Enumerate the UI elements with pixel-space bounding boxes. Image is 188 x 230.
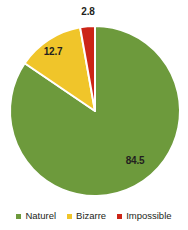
pie-chart: 2.8 12.7 84.5 Naturel Bizarre Impossible [0, 0, 188, 230]
legend-item-impossible[interactable]: Impossible [117, 211, 171, 221]
legend-item-naturel[interactable]: Naturel [16, 211, 56, 221]
legend-label-naturel: Naturel [25, 211, 56, 221]
legend-swatch-icon-impossible [117, 214, 122, 219]
chart-legend: Naturel Bizarre Impossible [0, 206, 188, 226]
legend-swatch-icon-naturel [16, 214, 21, 219]
pie-svg [0, 0, 188, 202]
data-label-bizarre: 12.7 [33, 46, 73, 57]
legend-item-bizarre[interactable]: Bizarre [67, 211, 106, 221]
legend-label-impossible: Impossible [126, 211, 171, 221]
pie-plot-area [0, 0, 188, 202]
legend-swatch-icon-bizarre [67, 214, 72, 219]
data-label-naturel: 84.5 [113, 155, 157, 166]
legend-label-bizarre: Bizarre [76, 211, 106, 221]
data-label-impossible: 2.8 [68, 6, 108, 17]
